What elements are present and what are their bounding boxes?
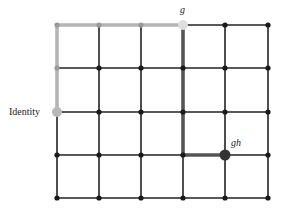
grid-node [180, 109, 185, 114]
gh-label: gh [231, 138, 241, 148]
grid-node [54, 152, 59, 157]
identity-node [52, 107, 62, 117]
grid-node [180, 65, 185, 70]
grid-node [138, 65, 143, 70]
gh-node [220, 150, 231, 161]
grid-node [54, 22, 59, 27]
grid-node [96, 195, 101, 200]
grid-node [222, 22, 227, 27]
grid-node [138, 109, 143, 114]
grid-node [138, 195, 143, 200]
grid-node [265, 109, 270, 114]
grid-node [138, 22, 143, 27]
grid-graph [0, 0, 286, 214]
grid-node [180, 195, 185, 200]
grid-node [180, 152, 185, 157]
path-h [183, 25, 225, 155]
identity-label: Identity [9, 107, 40, 117]
grid-node [54, 195, 59, 200]
grid-node [265, 65, 270, 70]
grid-node [265, 152, 270, 157]
grid-node [222, 195, 227, 200]
grid-node [222, 109, 227, 114]
grid-node [54, 65, 59, 70]
g-node [178, 20, 188, 30]
grid-node [222, 65, 227, 70]
grid-node [265, 195, 270, 200]
grid-node [96, 152, 101, 157]
grid-node [96, 109, 101, 114]
grid-node [265, 22, 270, 27]
grid-node [138, 152, 143, 157]
grid-node [96, 65, 101, 70]
g-label: g [180, 5, 185, 15]
grid-node [96, 22, 101, 27]
